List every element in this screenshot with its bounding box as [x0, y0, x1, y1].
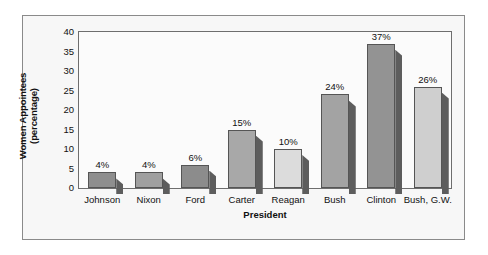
y-axis-tick-label: 40 [63, 26, 74, 37]
bar-front-face [88, 172, 116, 188]
bar-side-face [442, 93, 449, 194]
bar-slot: 15% [219, 32, 266, 188]
bar-slot: 4% [126, 32, 173, 188]
bar-side-face [302, 155, 309, 194]
y-axis-tick-label: 10 [63, 143, 74, 154]
bar[interactable] [414, 87, 442, 188]
bar-side-face [116, 178, 123, 194]
y-axis-tick-label: 5 [69, 162, 74, 173]
bar-front-face [274, 149, 302, 188]
bar[interactable] [88, 172, 116, 188]
bar[interactable] [135, 172, 163, 188]
bar-front-face [414, 87, 442, 188]
bar-slot: 24% [312, 32, 359, 188]
bar-front-face [367, 44, 395, 188]
bar[interactable] [321, 94, 349, 188]
y-axis-title-line1: Women Appointees [17, 73, 28, 160]
x-axis-tick-label: Nixon [137, 194, 161, 205]
bar-value-label: 10% [265, 136, 312, 147]
bar[interactable] [228, 130, 256, 189]
bar-side-face [395, 50, 402, 194]
x-axis-title: President [78, 209, 452, 220]
bar-value-label: 6% [172, 152, 219, 163]
bar-slot: 4% [79, 32, 126, 188]
y-axis-tick-label: 25 [63, 84, 74, 95]
bar-front-face [321, 94, 349, 188]
y-axis-tick-label: 15 [63, 123, 74, 134]
bar[interactable] [274, 149, 302, 188]
y-axis-tick-labels: 0510152025303540 [52, 31, 74, 189]
x-axis-tick-label: Bush [324, 194, 346, 205]
x-axis-tick-label: Ford [185, 194, 205, 205]
bar-side-face [163, 178, 170, 194]
y-axis-tick-label: 35 [63, 45, 74, 56]
bar-value-label: 37% [358, 31, 405, 42]
chart-figure: Women Appointees (percentage) 0510152025… [0, 0, 488, 255]
bar-front-face [228, 130, 256, 189]
bar-series: 4%4%6%15%10%24%37%26% [79, 32, 451, 188]
x-axis-tick-label: Carter [229, 194, 255, 205]
bar-slot: 10% [265, 32, 312, 188]
x-axis-tick-label: Reagan [272, 194, 305, 205]
bar-value-label: 4% [79, 159, 126, 170]
bar-side-face [256, 136, 263, 195]
y-axis-tick-label: 0 [69, 182, 74, 193]
bar[interactable] [181, 165, 209, 188]
y-axis-title: Women Appointees (percentage) [17, 41, 39, 191]
x-axis-tick-label: Bush, G.W. [404, 194, 452, 205]
bar-slot: 26% [405, 32, 452, 188]
bar-slot: 37% [358, 32, 405, 188]
bar[interactable] [367, 44, 395, 188]
x-axis-tick-labels: JohnsonNixonFordCarterReaganBushClintonB… [79, 194, 451, 208]
y-axis-title-line2: (percentage) [28, 41, 39, 191]
x-axis-tick-label: Clinton [366, 194, 396, 205]
bar-value-label: 4% [126, 159, 173, 170]
bar-value-label: 15% [219, 117, 266, 128]
bar-side-face [349, 100, 356, 194]
y-axis-tick-label: 30 [63, 65, 74, 76]
x-axis-tick-label: Johnson [84, 194, 120, 205]
bar-front-face [181, 165, 209, 188]
bar-value-label: 24% [312, 81, 359, 92]
bar-value-label: 26% [405, 74, 452, 85]
bar-slot: 6% [172, 32, 219, 188]
y-axis-tick-label: 20 [63, 104, 74, 115]
bar-front-face [135, 172, 163, 188]
bar-side-face [209, 171, 216, 194]
